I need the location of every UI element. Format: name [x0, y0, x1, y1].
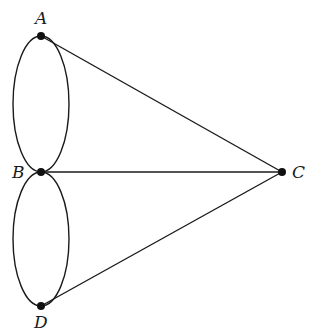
label-b: B [11, 162, 25, 182]
edge-b-d-pair [13, 172, 69, 306]
label-d: D [33, 312, 48, 332]
label-c: C [292, 162, 305, 182]
edge-a-c [41, 36, 282, 172]
node-d [37, 302, 45, 310]
node-a [37, 32, 45, 40]
edge-a-b-pair [13, 36, 69, 172]
edge-d-c [41, 172, 282, 306]
node-b [37, 168, 45, 176]
label-a: A [33, 8, 47, 28]
node-c [278, 168, 286, 176]
graph-diagram: A B C D [0, 0, 311, 332]
